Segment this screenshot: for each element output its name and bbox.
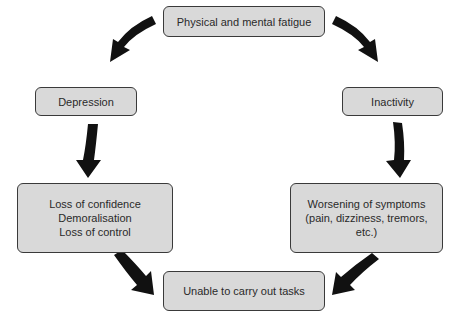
node-label: Inactivity xyxy=(371,95,414,109)
node-label-line: Loss of confidence xyxy=(49,197,141,211)
node-loss-of-confidence: Loss of confidence Demoralisation Loss o… xyxy=(17,183,173,253)
arrow-inactivity-to-worsening xyxy=(386,122,411,178)
fatigue-cycle-diagram: Physical and mental fatigue Depression I… xyxy=(0,0,456,326)
node-label-line: Worsening of symptoms xyxy=(308,197,426,211)
node-inactivity: Inactivity xyxy=(342,87,443,116)
node-label-line: etc.) xyxy=(356,225,377,239)
arrow-depression-to-loss xyxy=(76,124,101,178)
node-worsening-of-symptoms: Worsening of symptoms (pain, dizziness, … xyxy=(290,183,443,253)
node-label: Unable to carry out tasks xyxy=(183,284,305,298)
node-label-line: (pain, dizziness, tremors, xyxy=(305,211,427,225)
arrow-worsening-to-unable xyxy=(332,253,379,295)
node-depression: Depression xyxy=(35,87,137,116)
node-label-line: Demoralisation xyxy=(58,211,131,225)
node-unable-to-carry-out-tasks: Unable to carry out tasks xyxy=(163,271,325,311)
node-physical-mental-fatigue: Physical and mental fatigue xyxy=(163,6,325,37)
arrow-loss-to-unable xyxy=(114,250,154,295)
node-label-line: Loss of control xyxy=(59,225,131,239)
node-label: Depression xyxy=(58,95,114,109)
arrow-top-to-depression xyxy=(110,16,156,62)
node-label: Physical and mental fatigue xyxy=(177,15,312,29)
arrow-top-to-inactivity xyxy=(332,16,378,62)
